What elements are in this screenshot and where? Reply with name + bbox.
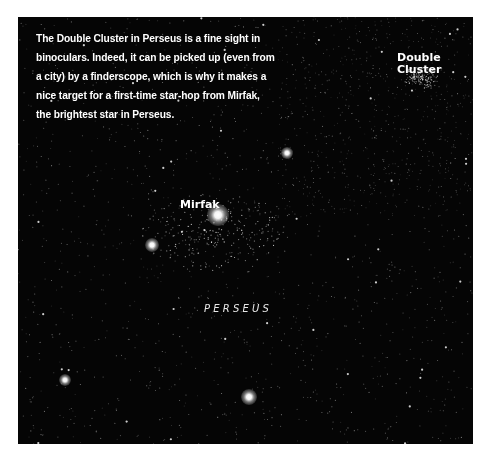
bright-star-icon [241, 389, 257, 405]
double-cluster-label-line2: Cluster [397, 64, 441, 76]
double-cluster-label: Double Cluster [397, 52, 441, 76]
bright-star-icon [59, 374, 71, 386]
caption-line: nice target for a first-time star-hop fr… [36, 86, 315, 105]
star-map: The Double Cluster in Perseus is a fine … [18, 17, 473, 444]
caption-line: The Double Cluster in Perseus is a fine … [36, 29, 315, 48]
bright-star-icon [281, 147, 293, 159]
caption-line: a city) by a finderscope, which is why i… [36, 67, 315, 86]
constellation-label: PERSEUS [204, 303, 272, 314]
caption-line: binoculars. Indeed, it can be picked up … [36, 48, 315, 67]
bright-star-icon [145, 238, 159, 252]
caption-text: The Double Cluster in Perseus is a fine … [36, 29, 315, 124]
caption-line: the brightest star in Perseus. [36, 105, 315, 124]
mirfak-label: Mirfak [180, 199, 220, 211]
